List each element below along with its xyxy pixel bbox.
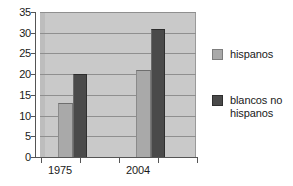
y-tick-mark-15 xyxy=(31,95,36,96)
y-tick-label-0: 0 xyxy=(3,152,31,163)
x-tick-mark-0 xyxy=(41,158,42,163)
bar-blancos-no-hispanos-1975 xyxy=(73,74,87,157)
legend-label-hispanos: hispanos xyxy=(230,48,273,61)
gridline-35 xyxy=(40,12,196,13)
y-tick-mark-30 xyxy=(31,33,36,34)
y-tick-mark-10 xyxy=(31,116,36,117)
y-tick-label-5: 5 xyxy=(3,131,31,142)
bar-chart-figure: 35 30 25 20 15 10 5 0 19 xyxy=(0,0,293,186)
gridline-20 xyxy=(40,74,196,75)
legend-entry-blancos-no-hispanos: blancos no hispanos xyxy=(212,94,282,120)
x-tick-mark-3 xyxy=(158,158,159,163)
y-tick-label-10: 10 xyxy=(3,111,31,122)
legend-label-blancos-no-hispanos: blancos no hispanos xyxy=(230,94,282,120)
x-tick-mark-1 xyxy=(80,158,81,163)
y-axis-labels: 35 30 25 20 15 10 5 0 xyxy=(0,0,31,186)
x-tick-mark-2 xyxy=(119,158,120,163)
bar-hispanos-1975 xyxy=(58,103,73,157)
y-tick-label-25: 25 xyxy=(3,48,31,59)
legend-swatch-dark-gray-icon xyxy=(212,95,223,106)
gridline-15 xyxy=(40,95,196,96)
x-category-label-2004: 2004 xyxy=(118,164,158,176)
y-tick-mark-0 xyxy=(31,157,36,158)
y-tick-label-20: 20 xyxy=(3,69,31,80)
x-category-label-1975: 1975 xyxy=(40,164,80,176)
y-tick-mark-5 xyxy=(31,136,36,137)
plot-area xyxy=(40,12,196,157)
y-tick-mark-25 xyxy=(31,53,36,54)
y-tick-mark-20 xyxy=(31,74,36,75)
legend-entry-hispanos: hispanos xyxy=(212,48,273,61)
y-tick-label-15: 15 xyxy=(3,90,31,101)
gridline-30 xyxy=(40,33,196,34)
bar-hispanos-2004 xyxy=(136,70,151,157)
y-tick-label-35: 35 xyxy=(3,7,31,18)
legend-swatch-light-gray-icon xyxy=(212,49,223,60)
gridline-25 xyxy=(40,53,196,54)
bar-blancos-no-hispanos-2004 xyxy=(151,29,165,157)
x-axis-line xyxy=(35,157,198,158)
y-tick-mark-35 xyxy=(31,12,36,13)
y-tick-label-30: 30 xyxy=(3,28,31,39)
x-tick-mark-4 xyxy=(197,158,198,163)
